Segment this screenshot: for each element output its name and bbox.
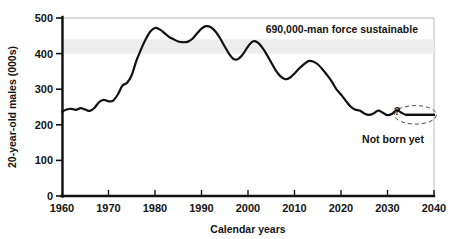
x-tick-label-2020: 2020 [329, 202, 353, 214]
x-tick-label-2030: 2030 [375, 202, 399, 214]
x-tick-label-2040: 2040 [422, 202, 446, 214]
y-axis-tick-labels: 0100200300400500 [35, 12, 53, 202]
y-tick-label-300: 300 [35, 83, 53, 95]
y-tick-label-200: 200 [35, 119, 53, 131]
y-axis-title: 20-year-old males (000s) [6, 46, 18, 168]
x-tick-label-2000: 2000 [236, 202, 260, 214]
x-axis-title: Calendar years [210, 223, 285, 235]
line-chart: 0100200300400500 19601970198019902000201… [0, 0, 452, 239]
y-tick-label-100: 100 [35, 154, 53, 166]
sustainable-force-note: 690,000-man force sustainable [266, 23, 418, 35]
x-axis-tick-labels: 196019701980199020002010202020302040 [50, 202, 446, 214]
x-tick-label-1970: 1970 [96, 202, 120, 214]
y-tick-label-400: 400 [35, 48, 53, 60]
chart-container: 0100200300400500 19601970198019902000201… [0, 0, 452, 239]
x-tick-label-1960: 1960 [50, 202, 74, 214]
x-tick-label-1990: 1990 [189, 202, 213, 214]
x-tick-label-1980: 1980 [143, 202, 167, 214]
y-tick-label-500: 500 [35, 12, 53, 24]
y-tick-label-0: 0 [47, 190, 53, 202]
x-tick-label-2010: 2010 [282, 202, 306, 214]
y-axis-ticks [56, 18, 62, 196]
not-born-yet-note: Not born yet [362, 133, 424, 145]
question-mark: ? [394, 105, 401, 117]
